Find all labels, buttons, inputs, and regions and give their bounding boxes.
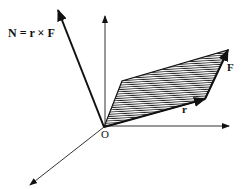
vector-n [58,10,104,127]
position-label: r [182,103,187,115]
torque-label: N = r × F [8,26,55,41]
origin-label: O [101,128,109,140]
axis-diagonal [30,127,104,185]
force-label: F [227,61,234,73]
